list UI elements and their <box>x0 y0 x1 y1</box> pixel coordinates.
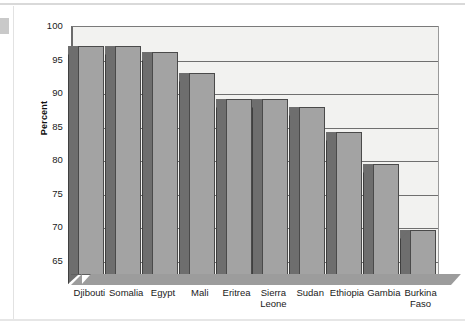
y-tick-label: 75 <box>37 188 63 199</box>
bar-side-shading <box>252 99 262 284</box>
bar <box>262 99 288 275</box>
y-tick-label: 70 <box>37 221 63 232</box>
bar-front-face <box>226 99 252 275</box>
bar-front-face <box>336 132 362 275</box>
y-tick-label: 80 <box>37 154 63 165</box>
floor-band <box>81 274 461 285</box>
bar-front-face <box>299 107 325 275</box>
bar-side-shading <box>326 132 336 284</box>
bar-side-face <box>142 52 152 275</box>
bar-side-face <box>363 164 373 275</box>
bar-front-face <box>115 46 141 275</box>
bar-front-face <box>410 230 436 275</box>
y-tick-label: 85 <box>37 121 63 132</box>
plot-right-edge <box>438 26 439 275</box>
bar-side-face <box>326 132 336 275</box>
page-canvas: Percent 65707580859095100 DjiboutiSomali… <box>0 0 465 321</box>
plot-area <box>71 26 439 274</box>
bar <box>299 107 325 275</box>
bar-side-face <box>68 46 78 275</box>
bar-front-face <box>262 99 288 275</box>
bar-chart: Percent 65707580859095100 DjiboutiSomali… <box>0 0 465 321</box>
axis-floor <box>71 274 451 286</box>
bar <box>373 164 399 275</box>
y-tick-label: 100 <box>37 20 63 31</box>
bar <box>115 46 141 275</box>
bar-side-face <box>289 107 299 275</box>
bar <box>78 46 104 275</box>
bar-front-face <box>152 52 178 275</box>
bar-side-shading <box>142 52 152 284</box>
bar-side-shading <box>179 73 189 284</box>
bar-side-shading <box>289 107 299 284</box>
bar <box>226 99 252 275</box>
bar <box>410 230 436 275</box>
bar-side-face <box>216 99 226 275</box>
bar-side-shading <box>216 99 226 284</box>
bar <box>336 132 362 275</box>
y-tick-label: 90 <box>37 87 63 98</box>
bar <box>189 73 215 275</box>
bar-side-face <box>105 46 115 275</box>
bar-side-face <box>252 99 262 275</box>
bar-side-face <box>400 230 410 275</box>
y-tick-label: 95 <box>37 54 63 65</box>
x-category-label: Burkina Faso <box>398 287 443 309</box>
bar-side-shading <box>68 46 78 284</box>
bar-side-shading <box>105 46 115 284</box>
bar-front-face <box>78 46 104 275</box>
bar-side-face <box>179 73 189 275</box>
y-tick-label: 65 <box>37 255 63 266</box>
bar-front-face <box>189 73 215 275</box>
floor-corner <box>71 274 82 285</box>
bar-front-face <box>373 164 399 275</box>
bar <box>152 52 178 275</box>
bar-side-shading <box>363 164 373 284</box>
